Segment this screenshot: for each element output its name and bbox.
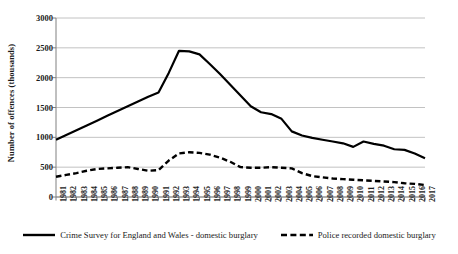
x-tick-label: 1994 — [192, 186, 201, 202]
x-tick-label: 1981 — [59, 186, 68, 202]
legend-label-police-recorded: Police recorded domestic burglary — [318, 230, 436, 240]
legend-swatch-dashed-icon — [280, 230, 314, 240]
x-tick-label: 2004 — [295, 186, 304, 202]
x-tick-label: 2017 — [428, 186, 437, 202]
x-tick-label: 2001 — [264, 186, 273, 202]
x-tick-label: 2005 — [305, 186, 314, 202]
x-tick-label: 2009 — [346, 186, 355, 202]
x-tick-label: 1983 — [80, 186, 89, 202]
legend-item-crime-survey: Crime Survey for England and Wales - dom… — [22, 230, 258, 240]
x-tick-label: 2008 — [336, 186, 345, 202]
legend-swatch-solid-icon — [22, 230, 56, 240]
x-tick-label: 2016 — [418, 186, 427, 202]
y-axis-title: Number of offences (thousands) — [6, 28, 16, 178]
x-tick-label: 1984 — [90, 186, 99, 202]
x-tick-label: 1990 — [151, 186, 160, 202]
x-tick-label: 1995 — [203, 186, 212, 202]
chart-legend: Crime Survey for England and Wales - dom… — [0, 230, 458, 240]
x-tick-label: 2006 — [315, 186, 324, 202]
legend-label-crime-survey: Crime Survey for England and Wales - dom… — [60, 230, 258, 240]
x-tick-label: 1996 — [213, 186, 222, 202]
x-tick-label: 1991 — [162, 186, 171, 202]
x-tick-label: 2012 — [377, 186, 386, 202]
x-tick-label: 1999 — [244, 186, 253, 202]
x-tick-label: 2007 — [326, 186, 335, 202]
legend-item-police-recorded: Police recorded domestic burglary — [280, 230, 436, 240]
x-tick-label: 1989 — [141, 186, 150, 202]
x-tick-label: 1992 — [172, 186, 181, 202]
chart-container: 050010001500200025003000 198119821983198… — [0, 0, 458, 254]
x-tick-label: 1982 — [69, 186, 78, 202]
x-tick-label: 2013 — [387, 186, 396, 202]
x-tick-label: 1993 — [182, 186, 191, 202]
x-tick-label: 2000 — [254, 186, 263, 202]
x-tick-label: 1988 — [131, 186, 140, 202]
x-tick-label: 2003 — [285, 186, 294, 202]
x-tick-label: 1997 — [223, 186, 232, 202]
x-tick-label: 2010 — [356, 186, 365, 202]
x-tick-label: 2014 — [397, 186, 406, 202]
x-tick-label: 2002 — [274, 186, 283, 202]
x-tick-label: 2011 — [367, 186, 376, 202]
x-tick-label: 1987 — [121, 186, 130, 202]
x-tick-label: 2015 — [408, 186, 417, 202]
x-tick-label: 1998 — [233, 186, 242, 202]
x-axis-tick-labels: 1981198219831984198519861987198819891990… — [0, 0, 458, 254]
x-tick-label: 1985 — [100, 186, 109, 202]
x-tick-label: 1986 — [110, 186, 119, 202]
